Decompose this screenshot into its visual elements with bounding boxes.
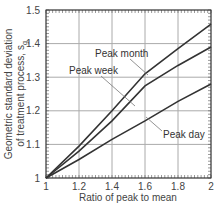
x-tick-labels: 11.21.41.61.82	[43, 181, 214, 192]
x-axis-label: Ratio of peak to mean	[79, 192, 177, 203]
x-tick-label: 1.4	[105, 181, 119, 192]
x-tick-label: 2	[208, 181, 214, 192]
label-peak-week: Peak week	[69, 65, 119, 76]
y-tick-labels: 11.11.21.31.41.5	[26, 5, 40, 184]
y-tick-label: 1.3	[26, 72, 40, 83]
minor-ticks	[46, 10, 211, 178]
y-tick-label: 1	[34, 173, 40, 184]
y-axis-label-line2: of treatment process, sg	[15, 41, 29, 147]
y-axis-label-line1: Geometric standard deviation	[3, 29, 14, 160]
x-tick-label: 1	[43, 181, 49, 192]
y-tick-label: 1.5	[26, 5, 40, 16]
chart: 11.21.41.61.82 11.11.21.31.41.5 Peak mon…	[0, 0, 216, 210]
grid	[46, 10, 211, 178]
y-tick-label: 1.1	[26, 139, 40, 150]
label-peak-day: Peak day	[163, 129, 205, 140]
y-tick-label: 1.4	[26, 38, 40, 49]
label-peak-month: Peak month	[95, 48, 148, 59]
y-tick-label: 1.2	[26, 105, 40, 116]
y-axis-label: Geometric standard deviation of treatmen…	[3, 29, 29, 160]
x-tick-label: 1.2	[72, 181, 86, 192]
x-tick-label: 1.6	[138, 181, 152, 192]
plot-frame	[46, 10, 211, 178]
x-tick-label: 1.8	[171, 181, 185, 192]
